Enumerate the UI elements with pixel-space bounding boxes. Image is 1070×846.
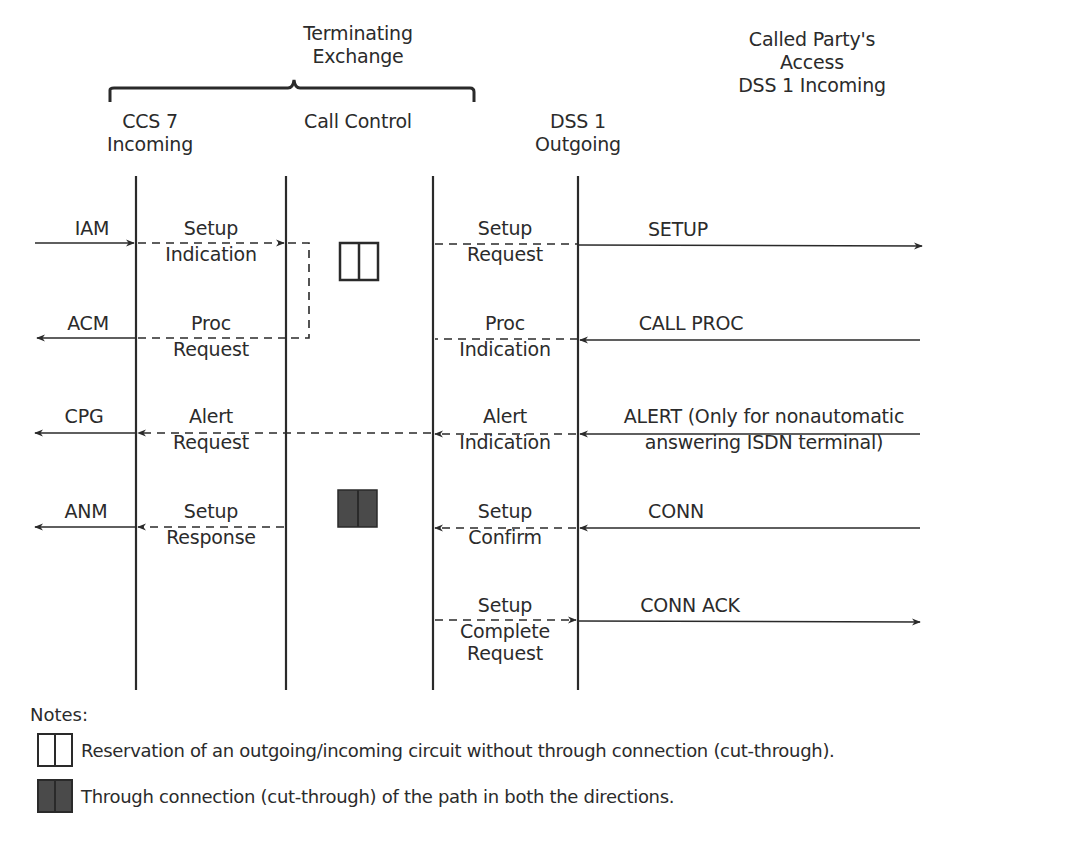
circuit-reserved-icon [37, 733, 73, 767]
primitive-proc-indication: Proc Indication [459, 312, 550, 360]
circuit-reserved-icon [340, 243, 378, 280]
primitive-alert-indication: Alert Indication [459, 405, 550, 453]
exchange-title: Terminating Exchange [303, 22, 413, 68]
msg-conn: CONN [648, 500, 704, 522]
primitive-setup-response: Setup Response [166, 500, 256, 548]
called-party-title: Called Party's Access DSS 1 Incoming [738, 28, 886, 97]
msg-cpg: CPG [65, 405, 104, 427]
circuit-connected-icon [338, 490, 377, 527]
column-header-dss1-outgoing: DSS 1 Outgoing [535, 110, 621, 156]
arrow-setup [578, 245, 922, 246]
circuit-connected-icon [37, 779, 73, 813]
msg-iam: IAM [75, 217, 109, 239]
note-item-through-connection: Through connection (cut-through) of the … [37, 779, 674, 813]
msg-acm: ACM [67, 312, 109, 334]
primitive-setup-request: Setup Request [467, 217, 543, 265]
column-header-ccs7: CCS 7 Incoming [107, 110, 193, 156]
msg-alert: ALERT (Only for nonautomatic answering I… [624, 405, 904, 453]
msg-setup: SETUP [648, 218, 708, 240]
msg-conn-ack: CONN ACK [640, 594, 739, 616]
note-item-reservation: Reservation of an outgoing/incoming circ… [37, 733, 835, 767]
arrow-conn-ack [578, 621, 920, 622]
primitive-alert-request: Alert Request [173, 405, 249, 453]
notes-title: Notes: [30, 704, 88, 725]
msg-call-proc: CALL PROC [639, 312, 744, 334]
primitive-setup-complete-request: Setup Complete Request [460, 594, 550, 664]
exchange-brace [110, 80, 474, 102]
dashed-loop [288, 243, 309, 338]
msg-anm: ANM [64, 500, 107, 522]
primitive-setup-confirm: Setup Confirm [468, 500, 542, 548]
primitive-setup-indication: Setup Indication [165, 217, 256, 265]
primitive-proc-request: Proc Request [173, 312, 249, 360]
column-header-call-control: Call Control [304, 110, 412, 133]
